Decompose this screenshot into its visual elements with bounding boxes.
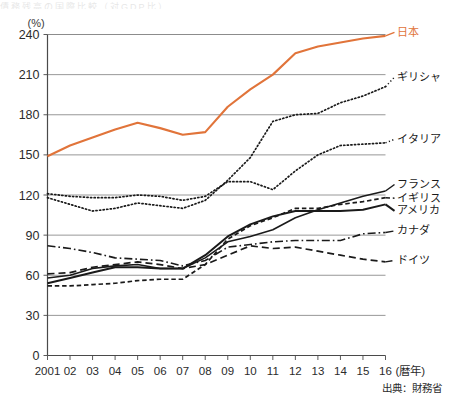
y-axis-tick-label-150: 150 xyxy=(19,148,40,162)
x-axis-tick-label-15: 15 xyxy=(357,365,370,377)
legend-entry-イギリス: イギリス xyxy=(386,192,441,204)
legend-entry-ドイツ: ドイツ xyxy=(386,254,430,266)
legend-entry-ギリシャ: ギリシャ xyxy=(386,71,441,87)
legend-label-日本: 日本 xyxy=(397,25,419,38)
legend-swatch-ドイツ xyxy=(386,260,395,262)
legend-entry-日本: 日本 xyxy=(386,25,419,38)
legend-entry-アメリカ: アメリカ xyxy=(386,204,440,216)
series-line-日本 xyxy=(48,36,386,156)
legend-swatch-カナダ xyxy=(386,231,395,233)
legend-entry-イタリア: イタリア xyxy=(386,133,441,145)
x-axis-tick-label-07: 07 xyxy=(176,365,189,377)
legend-label-カナダ: カナダ xyxy=(397,223,430,236)
y-axis-unit-label: (%) xyxy=(28,17,45,29)
x-axis-tick-label-08: 08 xyxy=(199,365,212,377)
legend-label-イタリア: イタリア xyxy=(397,133,441,145)
x-axis-tick-label-13: 13 xyxy=(312,365,325,377)
legend-swatch-ギリシャ xyxy=(386,77,395,87)
x-axis-tick-label-14: 14 xyxy=(334,365,347,377)
legend-label-ドイツ: ドイツ xyxy=(397,254,430,266)
legend-label-アメリカ: アメリカ xyxy=(397,204,440,216)
x-axis-tick-label-09: 09 xyxy=(221,365,234,377)
y-axis-tick-label-60: 60 xyxy=(26,269,40,283)
x-axis-tick-label-04: 04 xyxy=(109,365,122,377)
y-axis-tick-label-30: 30 xyxy=(26,309,40,323)
legend-label-フランス: フランス xyxy=(397,178,441,190)
source-note: 出典：財務省 xyxy=(382,382,442,394)
x-axis-tick-label-03: 03 xyxy=(86,365,99,377)
x-axis-label: (暦年) xyxy=(396,364,426,377)
line-chart: 0306090120150180210240(%)200102030405060… xyxy=(0,0,449,399)
x-axis-tick-label-10: 10 xyxy=(244,365,257,377)
x-axis-tick-label-11: 11 xyxy=(267,365,279,377)
legend-entry-カナダ: カナダ xyxy=(386,223,430,236)
y-axis-tick-label-180: 180 xyxy=(19,108,40,122)
legend-swatch-フランス xyxy=(386,184,395,191)
series-line-イタリア xyxy=(48,143,386,201)
legend-swatch-イギリス xyxy=(386,198,395,199)
y-axis-tick-label-0: 0 xyxy=(33,349,40,363)
legend-swatch-日本 xyxy=(386,32,395,36)
series-line-フランス xyxy=(48,191,386,278)
x-axis-tick-label-2001: 2001 xyxy=(35,365,61,377)
legend-label-イギリス: イギリス xyxy=(397,192,441,204)
y-axis-tick-label-240: 240 xyxy=(19,28,40,42)
series-line-ギリシャ xyxy=(48,87,386,211)
chart-canvas: 0306090120150180210240(%)200102030405060… xyxy=(0,0,449,399)
x-axis-tick-label-05: 05 xyxy=(131,365,144,377)
x-axis-tick-label-02: 02 xyxy=(64,365,77,377)
legend-label-ギリシャ: ギリシャ xyxy=(397,71,441,83)
y-axis-tick-label-90: 90 xyxy=(26,229,40,243)
legend-swatch-アメリカ xyxy=(386,204,395,211)
legend-swatch-イタリア xyxy=(386,139,395,143)
series-line-アメリカ xyxy=(48,204,386,283)
legend-entry-フランス: フランス xyxy=(386,178,441,191)
y-axis-tick-label-210: 210 xyxy=(19,68,40,82)
x-axis-tick-label-16: 16 xyxy=(379,365,392,377)
x-axis-tick-label-12: 12 xyxy=(289,365,302,377)
x-axis-tick-label-06: 06 xyxy=(154,365,167,377)
y-axis-tick-label-120: 120 xyxy=(19,189,40,203)
